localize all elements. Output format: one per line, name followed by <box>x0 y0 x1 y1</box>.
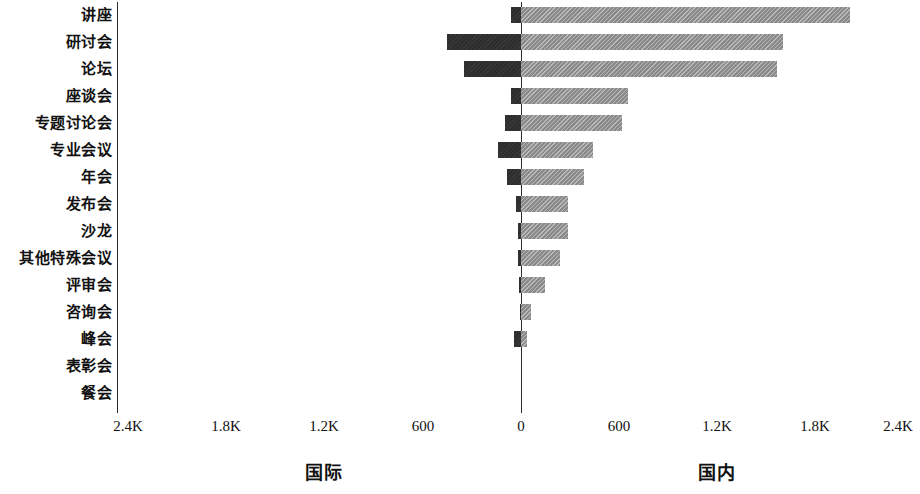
bar-right-5 <box>521 142 593 158</box>
bar-row <box>0 245 920 272</box>
tick-label-4: 0 <box>517 418 525 435</box>
bidirectional-bar-chart: 讲座 研讨会 论坛 座谈会 专题讨论会 专业会议 年会 发布会 沙龙 其他特殊会… <box>0 0 920 494</box>
bar-left-6 <box>507 169 521 185</box>
bar-row <box>0 56 920 83</box>
tick-label-6: 1.2K <box>702 418 732 435</box>
bar-row <box>0 299 920 326</box>
bar-right-7 <box>521 196 568 212</box>
tick-label-3: 600 <box>412 418 435 435</box>
bar-right-2 <box>521 61 777 77</box>
bar-left-1 <box>447 34 521 50</box>
bar-row <box>0 326 920 353</box>
right-series-title: 国内 <box>698 458 736 484</box>
bar-row <box>0 137 920 164</box>
left-series-title: 国际 <box>305 458 343 484</box>
bar-right-9 <box>521 250 560 266</box>
bar-left-0 <box>511 7 521 23</box>
bar-row <box>0 83 920 110</box>
bar-row <box>0 380 920 407</box>
bar-right-3 <box>521 88 628 104</box>
value-axis-ticks: 2.4K 1.8K 1.2K 600 0 600 1.2K 1.8K 2.4K <box>0 418 920 442</box>
bar-row <box>0 29 920 56</box>
bar-right-8 <box>521 223 568 239</box>
bar-row <box>0 191 920 218</box>
bar-row <box>0 218 920 245</box>
bar-row <box>0 2 920 29</box>
bar-right-10 <box>521 277 545 293</box>
bar-right-11 <box>521 304 531 320</box>
plot-area <box>0 0 920 415</box>
bar-row <box>0 164 920 191</box>
bar-row <box>0 272 920 299</box>
tick-label-1: 1.8K <box>211 418 241 435</box>
bar-left-5 <box>498 142 521 158</box>
tick-label-7: 1.8K <box>800 418 830 435</box>
bar-row <box>0 110 920 137</box>
tick-label-8: 2.4K <box>883 418 913 435</box>
bar-row <box>0 353 920 380</box>
tick-label-0: 2.4K <box>113 418 143 435</box>
bar-left-2 <box>464 61 521 77</box>
bar-right-4 <box>521 115 622 131</box>
tick-label-2: 1.2K <box>309 418 339 435</box>
bar-left-12 <box>514 331 521 347</box>
bar-left-3 <box>511 88 521 104</box>
tick-label-5: 600 <box>608 418 631 435</box>
bar-right-12 <box>521 331 527 347</box>
bar-left-4 <box>505 115 521 131</box>
bar-right-0 <box>521 7 850 23</box>
bar-right-1 <box>521 34 783 50</box>
bar-right-6 <box>521 169 584 185</box>
